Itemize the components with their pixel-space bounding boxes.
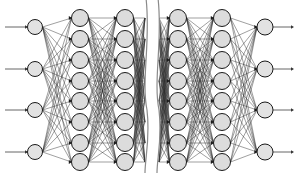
node-input-layer-1	[28, 62, 43, 77]
node-hidden-layer-4-3	[214, 73, 231, 90]
node-input-layer-3	[28, 145, 43, 160]
network-canvas	[0, 0, 298, 173]
node-hidden-layer-2-3	[117, 73, 134, 90]
node-hidden-layer-3-5	[170, 114, 187, 131]
node-hidden-layer-1-7	[72, 154, 89, 171]
node-hidden-layer-4-4	[214, 93, 231, 110]
node-hidden-layer-2-0	[117, 10, 134, 27]
neural-network-figure	[0, 0, 298, 173]
node-input-layer-2	[28, 103, 43, 118]
node-hidden-layer-3-7	[170, 154, 187, 171]
node-hidden-layer-1-3	[72, 73, 89, 90]
node-hidden-layer-3-6	[170, 135, 187, 152]
node-hidden-layer-3-1	[170, 31, 187, 48]
node-hidden-layer-1-0	[72, 10, 89, 27]
node-hidden-layer-4-0	[214, 10, 231, 27]
node-output-layer-1	[257, 61, 273, 77]
node-hidden-layer-1-2	[72, 52, 89, 69]
node-hidden-layer-1-1	[72, 31, 89, 48]
node-hidden-layer-2-4	[117, 93, 134, 110]
node-hidden-layer-4-7	[214, 154, 231, 171]
node-output-layer-0	[257, 19, 273, 35]
node-input-layer-0	[28, 20, 43, 35]
node-hidden-layer-3-2	[170, 52, 187, 69]
node-output-layer-2	[257, 102, 273, 118]
node-hidden-layer-2-7	[117, 154, 134, 171]
node-output-layer-3	[257, 144, 273, 160]
node-hidden-layer-3-3	[170, 73, 187, 90]
node-hidden-layer-1-6	[72, 135, 89, 152]
node-hidden-layer-3-0	[170, 10, 187, 27]
node-hidden-layer-4-2	[214, 52, 231, 69]
node-hidden-layer-3-4	[170, 93, 187, 110]
node-hidden-layer-2-1	[117, 31, 134, 48]
node-hidden-layer-2-2	[117, 52, 134, 69]
node-hidden-layer-4-5	[214, 114, 231, 131]
node-hidden-layer-2-5	[117, 114, 134, 131]
node-hidden-layer-1-5	[72, 114, 89, 131]
node-hidden-layer-2-6	[117, 135, 134, 152]
node-hidden-layer-4-6	[214, 135, 231, 152]
node-hidden-layer-1-4	[72, 93, 89, 110]
node-hidden-layer-4-1	[214, 31, 231, 48]
